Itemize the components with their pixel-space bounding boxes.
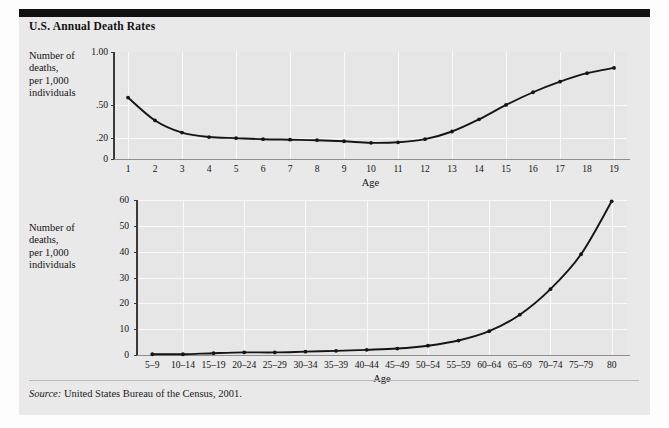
source-label: Source: (29, 388, 61, 399)
source-divider (29, 380, 639, 381)
source-note: Source: United States Bureau of the Cens… (29, 388, 242, 399)
source-text: United States Bureau of the Census, 2001… (61, 388, 242, 399)
figure-page: U.S. Annual Death Rates Number ofdeaths,… (0, 0, 669, 428)
chart-bottom-series (0, 0, 669, 380)
chart-bottom: Number ofdeaths,per 1,000individuals 605… (0, 0, 669, 380)
